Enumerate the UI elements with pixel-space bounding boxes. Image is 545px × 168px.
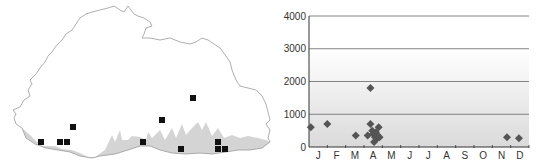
- occurrence-marker: [140, 139, 146, 145]
- x-tick-label: O: [479, 150, 487, 161]
- x-tick-label: J: [426, 150, 431, 161]
- occurrence-marker: [64, 139, 70, 145]
- occurrence-marker: [178, 146, 184, 152]
- y-tick-label: 3000: [284, 43, 307, 54]
- country-outline: [13, 6, 270, 158]
- occurrence-marker: [215, 139, 221, 145]
- occurrence-marker: [222, 146, 228, 152]
- occurrence-marker: [215, 146, 221, 152]
- x-tick-label: F: [333, 150, 339, 161]
- y-tick-labels: 01000200030004000: [284, 11, 307, 153]
- x-tick-label: M: [351, 150, 359, 161]
- x-tick-label: J: [316, 150, 321, 161]
- x-tick-label: A: [443, 150, 450, 161]
- x-tick-label: N: [498, 150, 505, 161]
- y-tick-label: 4000: [284, 11, 307, 22]
- occurrence-marker: [38, 139, 44, 145]
- occurrence-marker: [159, 117, 165, 123]
- elevation-by-month-chart: 01000200030004000 JFMAMJJASOND: [280, 0, 545, 168]
- x-tick-label: D: [516, 150, 523, 161]
- occurrence-marker: [70, 124, 76, 130]
- x-tick-label: S: [461, 150, 468, 161]
- occurrence-marker: [57, 139, 63, 145]
- x-tick-label: M: [387, 150, 395, 161]
- x-tick-label: A: [370, 150, 377, 161]
- occurrence-marker: [190, 95, 196, 101]
- y-tick-label: 1000: [284, 109, 307, 120]
- x-tick-label: J: [407, 150, 412, 161]
- distribution-map: [0, 0, 280, 168]
- y-tick-label: 0: [300, 142, 306, 153]
- y-tick-label: 2000: [284, 76, 307, 87]
